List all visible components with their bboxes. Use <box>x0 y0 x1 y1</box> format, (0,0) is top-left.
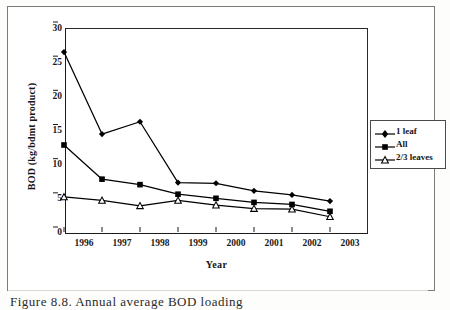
data-point <box>289 192 295 198</box>
data-point <box>327 198 333 204</box>
data-point <box>61 49 67 55</box>
axis-tick-marks <box>53 22 330 232</box>
data-point <box>137 182 143 188</box>
data-point <box>213 180 219 186</box>
scan-edge-line <box>8 290 428 291</box>
data-point <box>175 179 181 185</box>
figure-caption: Figure 8.8. Annual average BOD loading <box>10 294 440 309</box>
figure-page: 30 25 20 15 10 5 0 BOD (kg/bdmt product)… <box>0 0 450 310</box>
data-point <box>61 142 67 148</box>
data-point <box>137 119 143 125</box>
data-point <box>99 176 105 182</box>
data-point <box>99 131 105 137</box>
data-point <box>251 188 257 194</box>
chart-series-layer <box>0 0 450 310</box>
data-point <box>213 196 219 202</box>
